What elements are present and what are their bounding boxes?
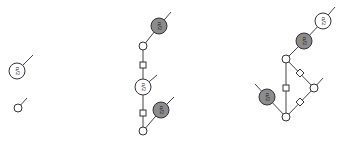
z-spider-R3 xyxy=(282,55,290,63)
z-spider-L2 xyxy=(14,104,22,112)
phase-label: π/2 xyxy=(265,93,271,101)
z-spider-M5 xyxy=(139,127,147,135)
panel-middle: π/2π/2π/2 xyxy=(135,12,174,135)
phase-label: π/2 xyxy=(157,22,163,30)
hadamard-box-icon xyxy=(140,110,146,116)
hadamard-box-icon xyxy=(283,85,289,91)
z-spider-R4 xyxy=(310,84,318,92)
hadamard-box-icon xyxy=(140,62,146,68)
zx-diagram-canvas: π/2 π/2π/2π/2 π/2π/2π/2 xyxy=(0,0,344,141)
phase-label: π/2 xyxy=(302,37,308,45)
phase-label: π/2 xyxy=(141,83,147,91)
z-spider-R6 xyxy=(282,113,290,121)
panel-right: π/2π/2π/2 xyxy=(255,7,335,121)
z-spider-M2 xyxy=(139,42,147,50)
panel-left: π/2 xyxy=(9,55,33,112)
phase-label: π/2 xyxy=(15,67,21,75)
phase-label: π/2 xyxy=(321,17,327,25)
phase-label: π/2 xyxy=(159,106,165,114)
